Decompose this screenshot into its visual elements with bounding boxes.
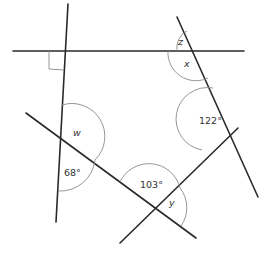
label-122: 122° xyxy=(199,115,222,126)
right-diagonal-line xyxy=(177,17,258,197)
label-x: x xyxy=(183,58,190,69)
descending-diagonal-line xyxy=(26,113,196,238)
angle-arc-w xyxy=(62,104,105,160)
label-w: w xyxy=(73,127,81,138)
label-z: z xyxy=(177,36,184,47)
geometry-diagram: z x 122° w 68° 103° y xyxy=(0,0,266,255)
label-68: 68° xyxy=(64,167,81,178)
label-y: y xyxy=(168,197,175,208)
angle-arc-y xyxy=(180,188,187,226)
right-angle-marker xyxy=(49,51,64,70)
label-103: 103° xyxy=(140,179,163,190)
left-vertical-line xyxy=(56,4,68,222)
